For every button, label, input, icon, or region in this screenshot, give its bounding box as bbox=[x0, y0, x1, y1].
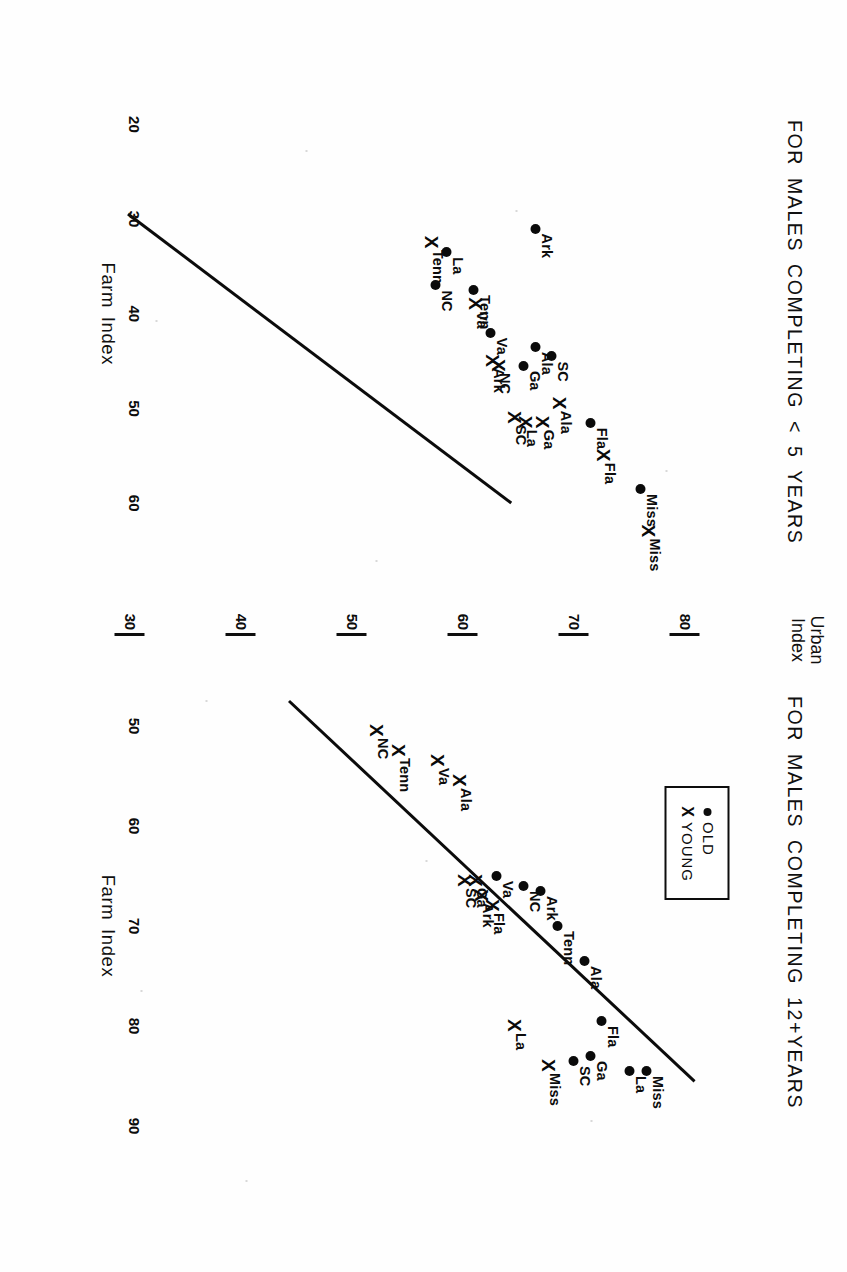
data-point-label: Va bbox=[435, 768, 451, 785]
data-point-label: Tenn bbox=[429, 250, 445, 284]
data-point-label: SC bbox=[512, 425, 528, 446]
y-tick-label: 50 bbox=[343, 602, 360, 630]
data-point-label: Miss bbox=[646, 539, 662, 572]
legend-label-old: OLD bbox=[699, 822, 716, 856]
young-cross-marker: X bbox=[465, 297, 484, 310]
x-tick-label: 30 bbox=[125, 202, 142, 236]
scan-speckle bbox=[590, 1120, 592, 1122]
young-cross-marker: X bbox=[427, 754, 446, 767]
data-point-label: Ga bbox=[526, 371, 542, 391]
old-dot-marker bbox=[468, 285, 478, 295]
y-tick-mark bbox=[558, 633, 588, 636]
scan-speckle bbox=[515, 210, 517, 212]
data-point-label: NC bbox=[438, 290, 454, 311]
figure-canvas: FOR MALES COMPLETING < 5 YEARS MissFlaAl… bbox=[0, 0, 847, 1272]
data-point-label: Fla bbox=[601, 463, 617, 485]
y-axis-urban-index: Urban Index 807060504030 bbox=[0, 607, 847, 669]
young-cross-marker: X bbox=[504, 1019, 523, 1032]
data-point-label: Ala bbox=[587, 966, 603, 989]
x-tick-label: 20 bbox=[125, 107, 142, 141]
old-dot-marker bbox=[596, 1016, 606, 1026]
y-tick-label: 70 bbox=[565, 602, 582, 630]
data-point-label: Miss bbox=[649, 1076, 665, 1109]
old-dot-marker bbox=[491, 871, 501, 881]
data-point-label: Va bbox=[493, 338, 509, 355]
x-tick-label: 90 bbox=[125, 1109, 142, 1143]
data-point-label: Fla bbox=[604, 1026, 620, 1048]
scan-speckle bbox=[245, 1180, 247, 1182]
x-tick-label: 40 bbox=[125, 297, 142, 331]
y-tick-mark bbox=[447, 633, 477, 636]
y-tick-label: 80 bbox=[676, 602, 693, 630]
data-point-label: Ala bbox=[457, 788, 473, 811]
y-tick-mark bbox=[336, 633, 366, 636]
data-point-label: Tenn bbox=[560, 931, 576, 965]
x-axis-right: Farm Index 5060708090 bbox=[96, 636, 142, 1272]
x-tick-label: 60 bbox=[125, 809, 142, 843]
scan-speckle bbox=[140, 990, 142, 992]
panel-12-plus-years: FOR MALES COMPLETING 12+YEARS MissLaGaSC… bbox=[0, 636, 847, 1272]
x-tick-label: 60 bbox=[125, 486, 142, 520]
data-point-label: Miss bbox=[643, 494, 659, 527]
scan-speckle bbox=[205, 700, 207, 702]
x-axis-left: Farm Index 2030405060 bbox=[96, 0, 142, 636]
young-cross-marker: X bbox=[388, 744, 407, 757]
legend-item-old: OLD bbox=[697, 802, 718, 882]
data-point-label: Tenn bbox=[396, 758, 412, 792]
x-tick-label: 70 bbox=[125, 909, 142, 943]
scan-speckle bbox=[375, 560, 377, 562]
data-point-label: La bbox=[632, 1076, 648, 1093]
x-axis-title-left: Farm Index bbox=[96, 234, 118, 394]
y-tick-mark bbox=[225, 633, 255, 636]
y-tick-label: 40 bbox=[232, 602, 249, 630]
old-dot-marker bbox=[579, 956, 589, 966]
x-axis-title-right: Farm Index bbox=[96, 846, 118, 1006]
data-point-label: Ark bbox=[538, 234, 554, 259]
x-tick-label: 80 bbox=[125, 1009, 142, 1043]
data-point-label: Fla bbox=[593, 428, 609, 450]
scan-speckle bbox=[155, 320, 157, 322]
old-dot-marker bbox=[530, 224, 540, 234]
y-axis-title-line2: Index bbox=[787, 597, 806, 683]
legend: OLD X YOUNG bbox=[664, 786, 729, 900]
old-dot-marker bbox=[518, 361, 528, 371]
legend-label-young: YOUNG bbox=[678, 822, 695, 882]
old-dot-marker bbox=[635, 484, 645, 494]
data-point-label: Ga bbox=[593, 1061, 609, 1081]
y-tick-label: 60 bbox=[454, 602, 471, 630]
data-point-label: SC bbox=[554, 361, 570, 382]
panel-less-than-5-years: FOR MALES COMPLETING < 5 YEARS MissFlaAl… bbox=[0, 0, 847, 636]
old-dot-marker bbox=[518, 881, 528, 891]
y-tick-label: 30 bbox=[121, 602, 138, 630]
data-point-label: SC bbox=[462, 888, 478, 909]
young-cross-marker: X bbox=[366, 724, 385, 737]
y-axis-title: Urban Index bbox=[787, 597, 825, 683]
young-cross-marker: X bbox=[482, 354, 501, 367]
young-cross-marker: X bbox=[421, 236, 440, 249]
young-cross-marker: X bbox=[538, 1059, 557, 1072]
old-dot-marker bbox=[585, 418, 595, 428]
young-cross-marker: X bbox=[504, 411, 523, 424]
data-point-label: SC bbox=[576, 1066, 592, 1087]
data-point-label: NC bbox=[526, 891, 542, 912]
old-dot-marker bbox=[552, 921, 562, 931]
data-point-label: Miss bbox=[546, 1073, 562, 1106]
y-tick-mark bbox=[114, 633, 144, 636]
young-cross-marker: X bbox=[549, 397, 568, 410]
young-cross-marker: X bbox=[593, 449, 612, 462]
x-tick-label: 50 bbox=[125, 709, 142, 743]
young-cross-marker: X bbox=[454, 874, 473, 887]
scan-speckle bbox=[425, 860, 427, 862]
old-dot-marker bbox=[530, 342, 540, 352]
data-point-label: Ark bbox=[543, 896, 559, 921]
y-axis-title-line1: Urban bbox=[806, 615, 826, 664]
legend-item-young: X YOUNG bbox=[676, 802, 697, 882]
legend-dot-icon bbox=[704, 802, 712, 822]
data-point-label: La bbox=[512, 1033, 528, 1050]
young-cross-marker: X bbox=[449, 774, 468, 787]
legend-cross-icon: X bbox=[679, 802, 695, 822]
young-cross-marker: X bbox=[638, 525, 657, 538]
data-point-label: Ark bbox=[490, 368, 506, 393]
x-tick-label: 50 bbox=[125, 391, 142, 425]
old-dot-marker bbox=[568, 1056, 578, 1066]
